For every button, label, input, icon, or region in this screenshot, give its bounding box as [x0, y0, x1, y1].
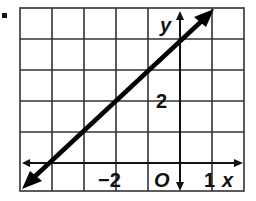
x-axis-right-arrow-icon [234, 159, 243, 167]
origin-label: O [154, 169, 170, 191]
y-axis-up-arrow-icon [176, 11, 184, 20]
y-axis-label: y [159, 14, 172, 36]
x-tick-1: 1 [204, 169, 215, 191]
x-tick-neg2: −2 [98, 169, 121, 191]
y-tick-2: 2 [156, 90, 167, 112]
y-axis-down-arrow-icon [176, 182, 184, 191]
bullet-marker [2, 13, 7, 18]
graph: y 2 −2 O 1 x [0, 0, 256, 201]
x-axis-left-arrow-icon [22, 159, 30, 167]
x-axis-label: x [221, 169, 234, 191]
labels: y 2 −2 O 1 x [98, 14, 234, 191]
